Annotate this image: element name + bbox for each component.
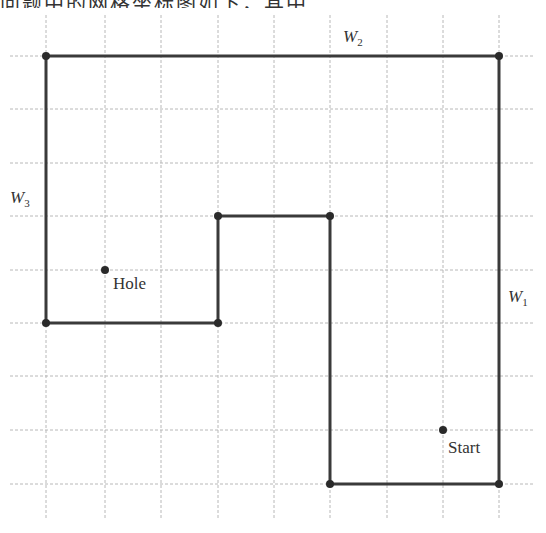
wall-label-w3: W3 [10,188,30,209]
point-hole-dot [101,266,109,274]
vertex-dot [42,319,50,327]
vertex-dot [42,52,50,60]
vertex-dot [495,52,503,60]
wall-label-w1: W1 [508,287,528,308]
maze-diagram: W2W3W1 HoleStart [0,0,546,533]
vertex-dot [214,212,222,220]
vertex-dot [495,480,503,488]
labeled-points: HoleStart [101,266,480,457]
point-start-label: Start [448,438,480,457]
vertex-dot [326,480,334,488]
point-start-dot [439,426,447,434]
vertex-dot [326,212,334,220]
point-hole-label: Hole [113,274,146,293]
wall-labels: W2W3W1 [10,27,528,308]
vertex-dot [214,319,222,327]
wall-label-w2: W2 [343,27,363,48]
